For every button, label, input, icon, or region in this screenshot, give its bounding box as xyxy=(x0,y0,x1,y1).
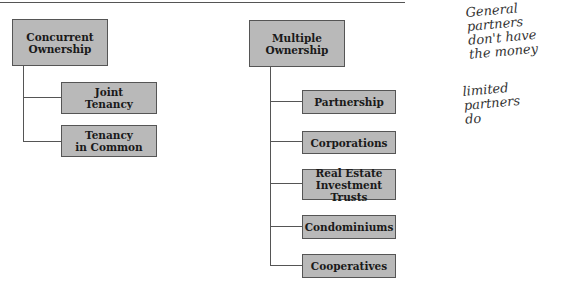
multiple-ownership-box: Multiple Ownership xyxy=(249,20,345,67)
connector-line xyxy=(270,183,302,184)
corporations-box: Corporations xyxy=(302,131,396,154)
reit-box: Real Estate Investment Trusts xyxy=(302,169,396,200)
handwritten-note: General partners don't have the money xyxy=(465,0,568,62)
cooperatives-box: Cooperatives xyxy=(302,254,396,278)
connector-line xyxy=(270,67,271,265)
tenancy-in-common-box: Tenancy in Common xyxy=(61,125,157,157)
connector-line xyxy=(23,97,61,98)
connector-line xyxy=(270,226,302,227)
top-rule xyxy=(0,2,405,3)
partnership-box: Partnership xyxy=(302,90,396,114)
condominiums-box: Condominiums xyxy=(302,215,396,239)
connector-line xyxy=(23,141,61,142)
joint-tenancy-box: Joint Tenancy xyxy=(61,82,157,114)
concurrent-ownership-box: Concurrent Ownership xyxy=(12,19,108,66)
connector-line xyxy=(270,101,302,102)
connector-line xyxy=(270,141,302,142)
handwritten-note: limited partners do xyxy=(462,76,568,127)
connector-line xyxy=(270,265,302,266)
connector-line xyxy=(23,66,24,141)
